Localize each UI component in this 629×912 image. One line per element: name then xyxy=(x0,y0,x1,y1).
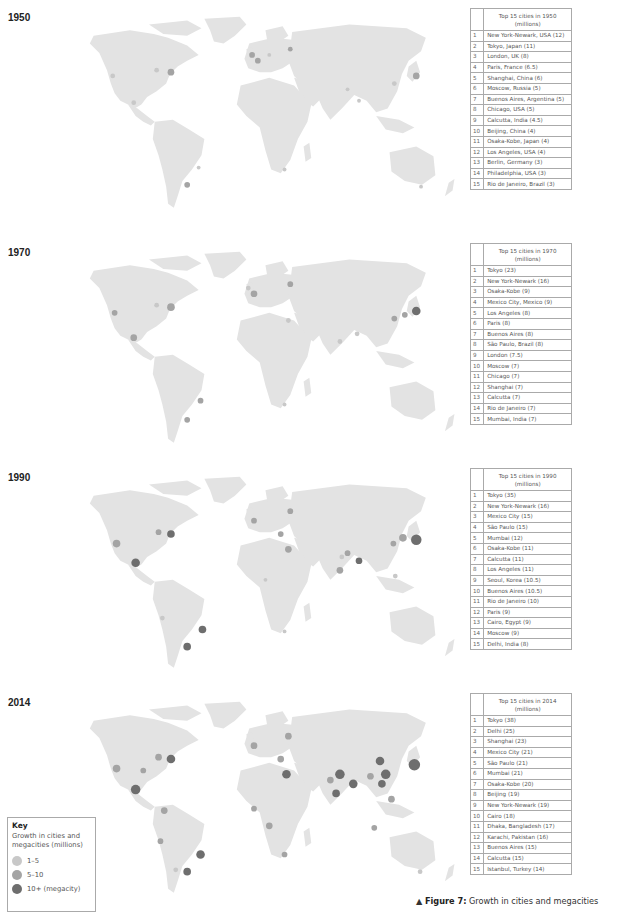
key-item-label: 5–10 xyxy=(27,871,43,879)
table-row: 5São Paulo (21) xyxy=(471,758,572,769)
key-title: Key xyxy=(12,821,91,830)
table-header: Top 15 cities in 2014(millions) xyxy=(484,694,572,716)
table-row: 8Chicago, USA (5) xyxy=(471,105,572,116)
table-row: 9New York-Newark (19) xyxy=(471,800,572,811)
table-row: 9Calcutta, India (4.5) xyxy=(471,115,572,126)
world-map-svg xyxy=(44,247,464,457)
table-row: 7Buenos Aires, Argentina (5) xyxy=(471,94,572,105)
table-row: 8Beijing (19) xyxy=(471,790,572,801)
circle-medium-icon xyxy=(12,870,22,880)
panel-1990: 1990 Top 15 cities in 1 xyxy=(0,468,629,688)
world-map-svg xyxy=(44,12,464,222)
table-row: 11Rio de Janeiro (10) xyxy=(471,596,572,607)
table-row: 13Calcutta (7) xyxy=(471,393,572,404)
world-map-svg xyxy=(44,697,464,907)
table-row: 14Rio de Janeiro (7) xyxy=(471,403,572,414)
table-row: 6Mumbai (21) xyxy=(471,768,572,779)
table-row: 4São Paulo (15) xyxy=(471,522,572,533)
cities-table-2014: Top 15 cities in 2014(millions) 1Tokyo (… xyxy=(470,693,572,875)
table-row: 8Los Angeles (11) xyxy=(471,565,572,576)
table-row: 12Shanghai (7) xyxy=(471,382,572,393)
table-row: 2New York-Newark (16) xyxy=(471,501,572,512)
figure-label: Figure 7: xyxy=(425,896,467,906)
world-map xyxy=(44,697,464,907)
table-row: 11Dhaka, Bangladesh (17) xyxy=(471,821,572,832)
table-row: 12Karachi, Pakistan (16) xyxy=(471,832,572,843)
table-row: 4Mexico City (21) xyxy=(471,747,572,758)
table-row: 13Cairo, Egypt (9) xyxy=(471,618,572,629)
table-row: 7Buenos Aires (8) xyxy=(471,329,572,340)
table-row: 5Los Angeles (8) xyxy=(471,308,572,319)
table-row: 5Mumbai (12) xyxy=(471,533,572,544)
table-row: 2Delhi (25) xyxy=(471,726,572,737)
table-row: 15Delhi, India (8) xyxy=(471,639,572,650)
table-header: Top 15 cities in 1970(millions) xyxy=(484,244,572,266)
table-row: 2Tokyo, Japan (11) xyxy=(471,41,572,52)
figure-caption-text: Growth in cities and megacities xyxy=(466,896,598,906)
table-row: 10Beijing, China (4) xyxy=(471,126,572,137)
table-row: 13Buenos Aires (15) xyxy=(471,843,572,854)
world-map xyxy=(44,472,464,682)
table-row: 2New York-Newark (16) xyxy=(471,276,572,287)
table-row: 15Rio de Janeiro, Brazil (3) xyxy=(471,179,572,190)
table-row: 8São Paulo, Brazil (8) xyxy=(471,340,572,351)
table-row: 11Chicago (7) xyxy=(471,371,572,382)
table-row: 3London, UK (8) xyxy=(471,52,572,63)
table-row: 1New York-Newark, USA (12) xyxy=(471,31,572,42)
panel-1950: 1950 Top 15 cities in 1950(millions) 1Ne… xyxy=(0,8,629,228)
panel-1970: 1970 Top 15 cities in 1970(millions) 1To… xyxy=(0,243,629,463)
key-item-label: 10+ (megacity) xyxy=(27,885,80,893)
triangle-up-icon: ▲ xyxy=(416,896,422,906)
table-row: 12Paris (9) xyxy=(471,607,572,618)
figure-caption: ▲ Figure 7: Growth in cities and megacit… xyxy=(416,896,598,906)
table-row: 1Tokyo (38) xyxy=(471,716,572,727)
table-row: 4Paris, France (6.5) xyxy=(471,62,572,73)
key-item-large: 10+ (megacity) xyxy=(12,882,91,896)
key-item-small: 1–5 xyxy=(12,854,91,868)
table-row: 12Los Angeles, USA (4) xyxy=(471,147,572,158)
table-row: 9London (7.5) xyxy=(471,350,572,361)
year-label: 2014 xyxy=(8,697,30,708)
year-label: 1970 xyxy=(8,247,30,258)
table-row: 6Osaka-Kobe (11) xyxy=(471,543,572,554)
table-row: 14Calcutta (15) xyxy=(471,853,572,864)
key-item-medium: 5–10 xyxy=(12,868,91,882)
table-row: 10Cairo (18) xyxy=(471,811,572,822)
year-label: 1950 xyxy=(8,12,30,23)
year-label: 1990 xyxy=(8,472,30,483)
table-row: 15Mumbai, India (7) xyxy=(471,414,572,425)
table-row: 4Mexico City, Mexico (9) xyxy=(471,297,572,308)
table-row: 1Tokyo (35) xyxy=(471,491,572,502)
table-row: 7Osaka-Kobe (20) xyxy=(471,779,572,790)
table-row: 5Shanghai, China (6) xyxy=(471,73,572,84)
table-row: 3Shanghai (23) xyxy=(471,737,572,748)
table-row: 11Osaka-Kobe, Japan (4) xyxy=(471,136,572,147)
table-row: 9Seoul, Korea (10.5) xyxy=(471,575,572,586)
world-map-svg xyxy=(44,472,464,682)
circle-large-icon xyxy=(12,884,22,894)
table-header: Top 15 cities in 1950(millions) xyxy=(484,9,572,31)
table-row: 6Paris (8) xyxy=(471,318,572,329)
key-subtitle: Growth in cities and megacities (million… xyxy=(12,832,91,850)
table-row: 14Philadelphia, USA (3) xyxy=(471,168,572,179)
cities-table-1990: Top 15 cities in 1990(millions) 1Tokyo (… xyxy=(470,468,572,650)
table-row: 3Mexico City (15) xyxy=(471,512,572,523)
table-row: 10Moscow (7) xyxy=(471,361,572,372)
world-map xyxy=(44,12,464,222)
table-header: Top 15 cities in 1990(millions) xyxy=(484,469,572,491)
key-item-label: 1–5 xyxy=(27,857,39,865)
cities-table-1950: Top 15 cities in 1950(millions) 1New Yor… xyxy=(470,8,572,190)
table-row: 3Osaka-Kobe (9) xyxy=(471,287,572,298)
table-row: 7Calcutta (11) xyxy=(471,554,572,565)
table-row: 1Tokyo (23) xyxy=(471,266,572,277)
table-row: 14Moscow (9) xyxy=(471,628,572,639)
table-row: 13Berlin, Germany (3) xyxy=(471,158,572,169)
table-row: 6Moscow, Russia (5) xyxy=(471,83,572,94)
map-key-legend: Key Growth in cities and megacities (mil… xyxy=(7,817,96,912)
table-row: 10Buenos Aires (10.5) xyxy=(471,586,572,597)
cities-table-1970: Top 15 cities in 1970(millions) 1Tokyo (… xyxy=(470,243,572,425)
world-map xyxy=(44,247,464,457)
table-row: 15Istanbul, Turkey (14) xyxy=(471,864,572,875)
circle-small-icon xyxy=(12,856,22,866)
